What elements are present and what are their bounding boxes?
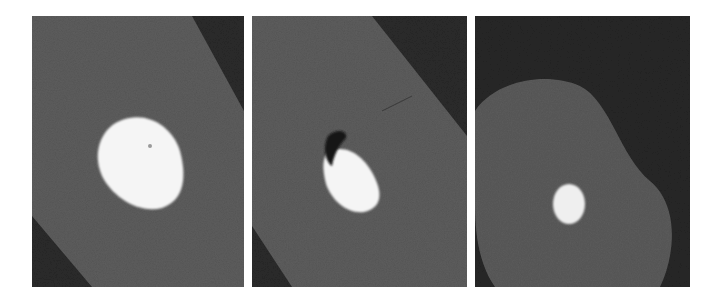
- ct-slice-2: [252, 16, 467, 287]
- ct-slice-3: [475, 16, 690, 287]
- ct-slice-1: [32, 16, 244, 287]
- ct-image-panel-3: [475, 16, 690, 287]
- ct-image-panel-2: [252, 16, 467, 287]
- ct-image-panel-1: [32, 16, 244, 287]
